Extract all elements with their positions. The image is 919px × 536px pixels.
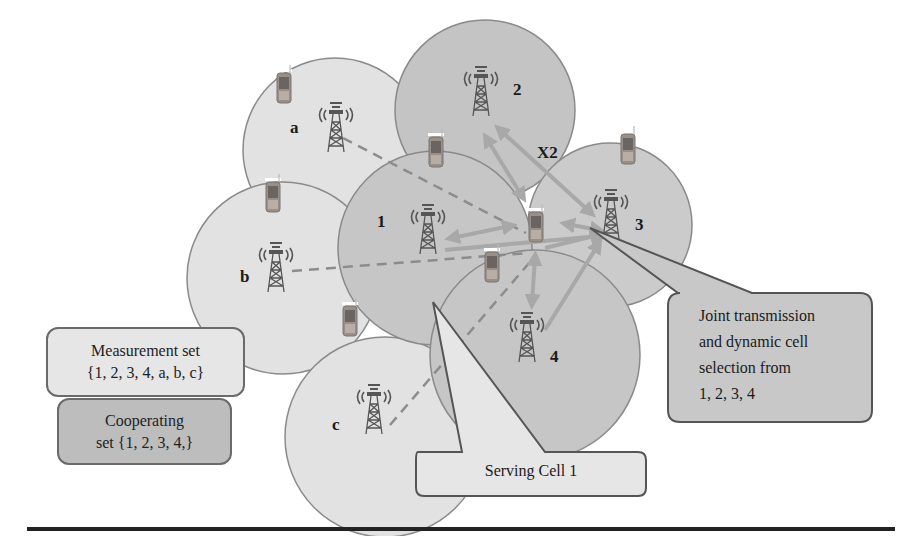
cell-3-label: 3 (635, 215, 644, 235)
joint-transmission-line3: selection from (699, 355, 869, 381)
measurement-set-box: Measurement set {1, 2, 3, 4, a, b, c} (46, 327, 245, 397)
x2-interface-label: X2 (537, 143, 558, 163)
phone-icon (428, 129, 444, 167)
bottom-divider (27, 527, 895, 531)
cooperating-set-box: Cooperating set {1, 2, 3, 4,} (57, 398, 232, 465)
joint-transmission-text: Joint transmission and dynamic cell sele… (699, 303, 869, 407)
joint-transmission-line4: 1, 2, 3, 4 (699, 381, 869, 407)
measurement-set-title: Measurement set (48, 340, 243, 362)
phone-icon (342, 298, 358, 336)
measurement-set-members: {1, 2, 3, 4, a, b, c} (48, 362, 243, 384)
cooperating-set-title: Cooperating (59, 410, 230, 432)
ue-phone-icon (528, 204, 544, 242)
joint-transmission-line1: Joint transmission (699, 303, 869, 329)
serving-cell-label: Serving Cell 1 (416, 462, 646, 480)
cooperating-set-members: set {1, 2, 3, 4,} (59, 432, 230, 454)
phone-icon (484, 244, 500, 282)
cell-a-label: a (290, 118, 299, 138)
cell-2-label: 2 (513, 80, 522, 100)
cell-1-label: 1 (377, 212, 386, 232)
phone-icon (276, 65, 292, 103)
cell-b-label: b (240, 267, 249, 287)
phone-icon (620, 126, 636, 164)
cell-4-label: 4 (550, 347, 559, 367)
joint-transmission-line2: and dynamic cell (699, 329, 869, 355)
phone-icon (265, 174, 281, 212)
cell-c-label: c (332, 415, 340, 435)
comp-diagram: a 2 3 b 1 4 c X2 Measurement set {1, 2, … (0, 0, 919, 536)
